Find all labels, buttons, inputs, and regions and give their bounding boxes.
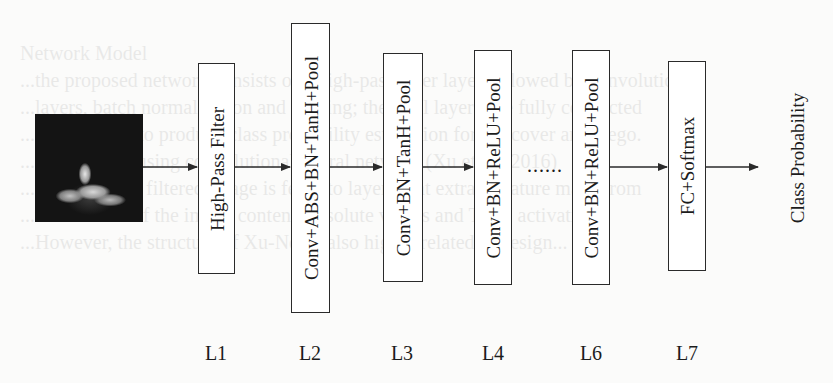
output-class-probability: Class Probability [788,93,807,223]
layer-label-l3: L3 [391,342,413,365]
layer-label-l7: L7 [676,342,698,365]
layer-text-l1: High-Pass Filter [207,106,226,230]
layer-text-l6: Conv+BN+ReLU+Pool [582,77,601,258]
input-image [35,114,143,222]
layer-text-l3: Conv+BN+TanH+Pool [394,79,413,256]
layer-box-l7: FC+Softmax [668,61,706,271]
layer-label-l1: L1 [205,342,227,365]
layer-text-l7: FC+Softmax [678,117,697,215]
layer-box-l1: High-Pass Filter [198,63,235,274]
layer-box-l4: Conv+BN+ReLU+Pool [474,50,512,285]
ellipsis-more-layers: ...... [527,154,563,177]
layer-text-l2: Conv+ABS+BN+TanH+Pool [301,56,320,280]
layer-text-l4: Conv+BN+ReLU+Pool [484,77,503,258]
layer-label-l4: L4 [482,342,504,365]
layer-box-l2: Conv+ABS+BN+TanH+Pool [291,23,330,313]
layer-label-l6: L6 [580,342,602,365]
layer-box-l6: Conv+BN+ReLU+Pool [572,50,610,285]
layer-box-l3: Conv+BN+TanH+Pool [383,53,423,282]
layer-label-l2: L2 [299,342,321,365]
